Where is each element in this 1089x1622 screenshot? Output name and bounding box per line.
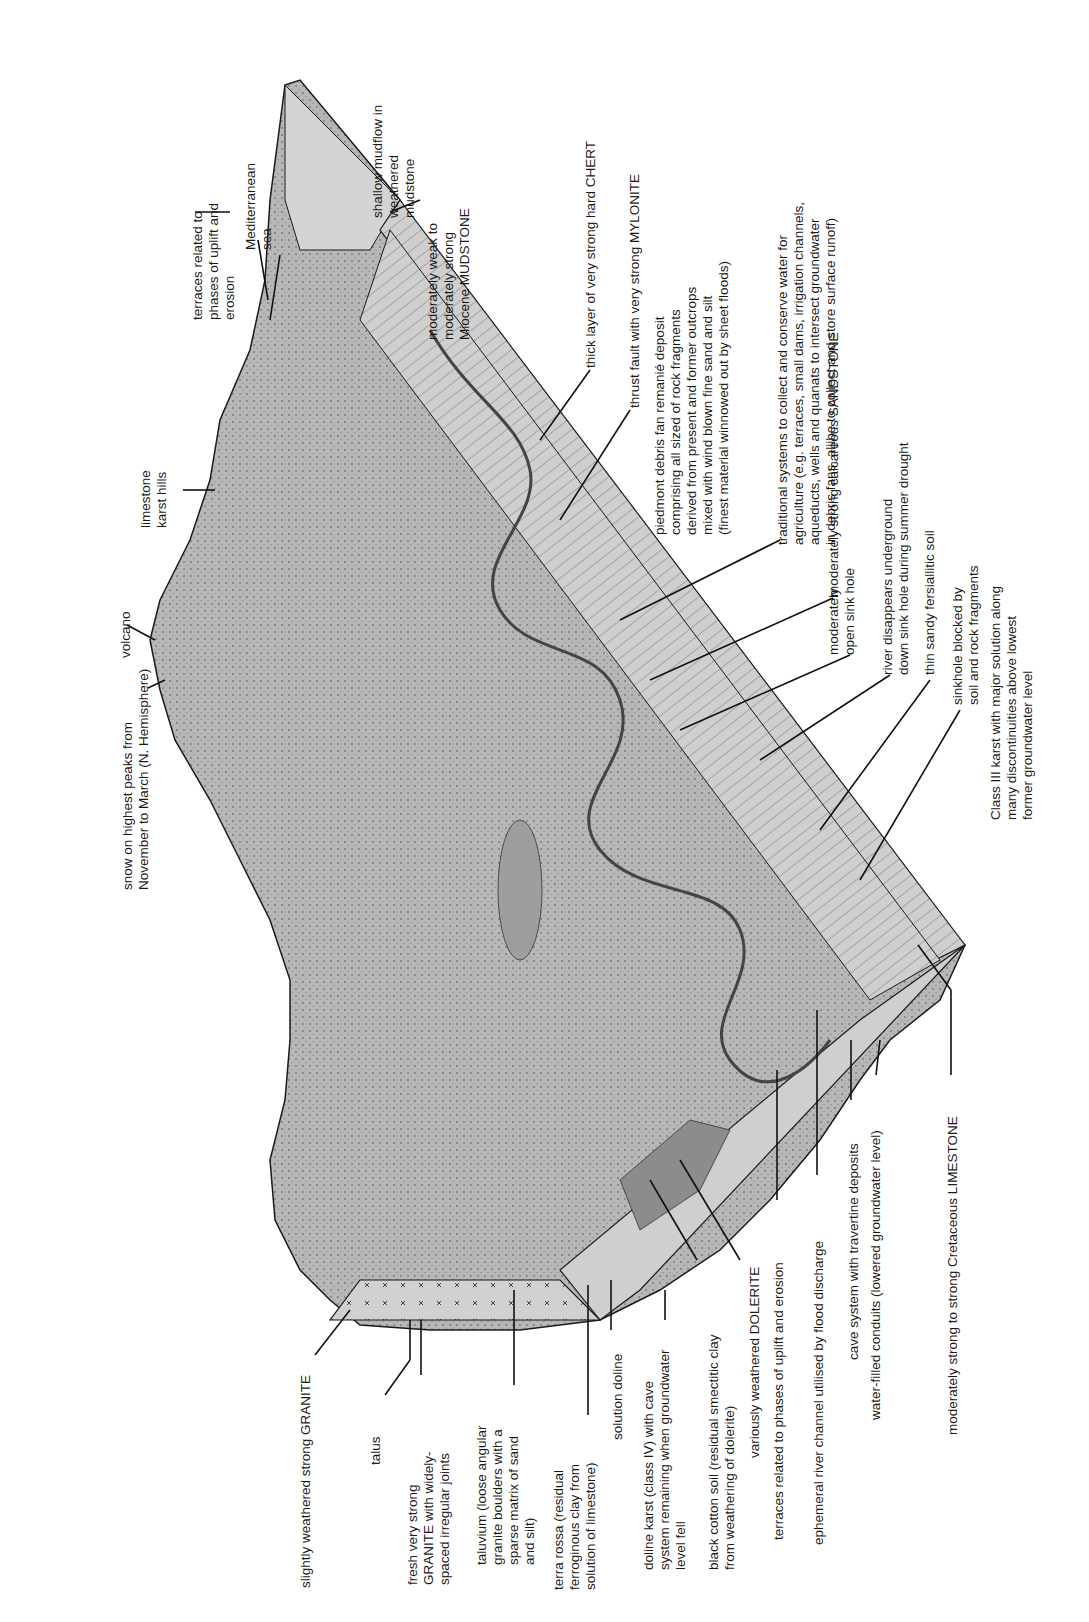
label-solution-doline: solution doline <box>610 1354 626 1440</box>
label-limestone: moderately strong to strong Cretaceous L… <box>945 1116 961 1435</box>
label-volcano: volcano <box>118 611 134 658</box>
label-ephemeral-river: ephemeral river channel utilised by floo… <box>811 1241 827 1545</box>
label-mudstone: moderately weak to moderately strong Mio… <box>425 208 473 340</box>
label-chert: thick layer of very strong hard CHERT <box>583 141 599 368</box>
label-mudflow: shallow mudflow in weathered mudstone <box>370 105 418 218</box>
label-water-conduits: water-filled conduits (lowered groundwat… <box>868 1130 884 1420</box>
block-diagram-illustration <box>0 0 1089 1622</box>
label-class-iii-karst: Class III karst with major solution alon… <box>988 586 1036 820</box>
label-fersiallitic-soil: thin sandy fersiallitic soil <box>922 530 938 675</box>
label-river-disappears: river disappears underground down sink h… <box>880 442 912 675</box>
label-slightly-weathered-granite: slightly weathered strong GRANITE <box>298 1375 314 1588</box>
label-sandstone: moderately strong calcareous SANDSTONE <box>826 332 842 597</box>
label-taluvium: taluvium (loose angular granite boulders… <box>474 1425 538 1565</box>
label-black-cotton-soil: black cotton soil (residual smectitic cl… <box>706 1334 738 1570</box>
label-open-sink-hole: moderately open sink hole <box>826 568 858 655</box>
granite-face <box>330 1280 600 1320</box>
label-karst-hills: limestone karst hills <box>138 470 170 528</box>
label-mylonite: thrust fault with very strong MYLONITE <box>627 174 643 408</box>
label-terraces-lower: terraces related to phases of uplift and… <box>771 1262 787 1540</box>
label-snow: snow on highest peaks from November to M… <box>120 669 152 890</box>
label-terra-rossa: terra rossa (residual ferroginous clay f… <box>551 1462 599 1590</box>
label-terraces-upper: terraces related to phases of uplift and… <box>190 203 238 320</box>
label-doline-karst: doline karst (class IV) with cave system… <box>641 1349 689 1570</box>
label-sinkhole-blocked: sinkhole blocked by soil and rock fragme… <box>950 565 982 705</box>
label-dolerite: variously weathered DOLERITE <box>747 1267 763 1458</box>
label-fresh-granite: fresh very strong GRANITE with widely- s… <box>405 1451 453 1585</box>
label-sea: Mediterranean sea <box>243 163 275 250</box>
label-cave-system: cave system with travertine deposits <box>846 1143 862 1360</box>
debris-fan <box>498 820 542 960</box>
label-talus: talus <box>368 1436 384 1465</box>
label-piedmont: piedmont debris fan remanié deposit comp… <box>652 261 732 535</box>
geological-block-diagram: slightly weathered strong GRANITE talus … <box>0 0 1089 1622</box>
